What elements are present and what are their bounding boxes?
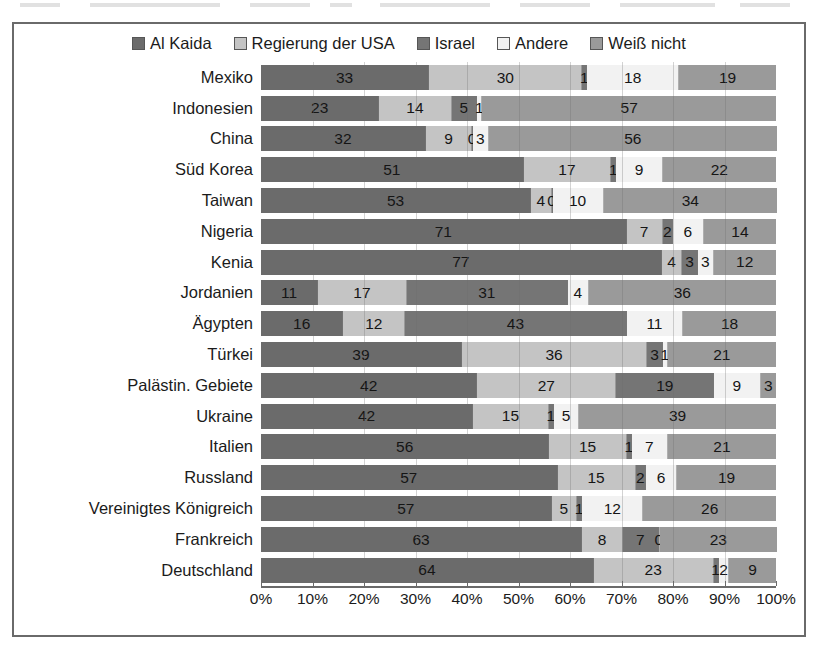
bar-value-label: 21 xyxy=(713,347,730,363)
row-label-kenia: Kenia xyxy=(14,253,261,272)
bar-segment: 56 xyxy=(489,126,777,151)
row-label-taiwan: Taiwan xyxy=(14,191,261,210)
bar-segment: 8 xyxy=(582,527,623,552)
chart-legend: Al KaidaRegierung der USAIsraelAndereWei… xyxy=(14,30,804,56)
x-axis-tick-mark xyxy=(467,581,468,586)
legend-label: Al Kaida xyxy=(150,34,211,53)
bar-row: China3290356 xyxy=(14,124,804,155)
bar-value-label: 42 xyxy=(358,408,375,424)
row-label-ägypten: Ägypten xyxy=(14,314,261,333)
bar-value-label: 16 xyxy=(293,316,310,332)
bar-value-label: 8 xyxy=(598,532,607,548)
bar-value-label: 33 xyxy=(336,70,353,86)
row-track: 7172614 xyxy=(261,219,776,244)
scan-speck xyxy=(20,3,60,7)
bar-value-label: 11 xyxy=(281,285,297,301)
bar-segment: 11 xyxy=(627,311,684,336)
bar-value-label: 12 xyxy=(365,316,382,332)
bar-segment: 19 xyxy=(616,373,714,398)
bar-segment: 57 xyxy=(261,465,558,490)
bar-segment: 19 xyxy=(679,65,776,90)
bar-value-label: 6 xyxy=(657,470,666,486)
bar-segment: 2 xyxy=(663,219,673,244)
legend-item-israel[interactable]: Israel xyxy=(417,34,475,53)
bar-value-label: 5 xyxy=(562,408,571,424)
bar-value-label: 18 xyxy=(721,316,738,332)
bar-value-label: 2 xyxy=(663,224,672,240)
x-axis-tick-label: 80% xyxy=(657,590,688,608)
bar-value-label: 27 xyxy=(538,378,555,394)
legend-item-al-kaida[interactable]: Al Kaida xyxy=(132,34,211,53)
bar-value-label: 77 xyxy=(452,254,469,270)
bar-value-label: 31 xyxy=(478,285,495,301)
bar-value-label: 23 xyxy=(710,532,727,548)
legend-item-andere[interactable]: Andere xyxy=(497,34,568,53)
bar-value-label: 3 xyxy=(764,378,773,394)
bar-segment: 36 xyxy=(589,280,776,305)
bar-row: Jordanien111731436 xyxy=(14,278,804,309)
bar-row: Vereinigtes Königreich57511226 xyxy=(14,493,804,524)
bar-value-label: 9 xyxy=(444,131,453,147)
bar-value-label: 26 xyxy=(701,501,718,517)
bar-value-label: 19 xyxy=(719,70,736,86)
bar-value-label: 43 xyxy=(507,316,524,332)
bar-value-label: 10 xyxy=(569,193,586,209)
row-track: 39363121 xyxy=(261,342,776,367)
bar-segment: 77 xyxy=(261,250,662,275)
bar-value-label: 17 xyxy=(558,162,575,178)
bar-segment: 63 xyxy=(261,527,582,552)
bar-value-label: 3 xyxy=(650,347,659,363)
x-axis-tick-label: 60% xyxy=(554,590,585,608)
bar-segment: 57 xyxy=(482,96,776,121)
scan-speck xyxy=(380,3,490,7)
row-track: 3290356 xyxy=(261,126,776,151)
bar-segment: 39 xyxy=(261,342,462,367)
bar-segment: 14 xyxy=(379,96,451,121)
x-axis-tick-mark xyxy=(261,581,262,586)
row-label-indonesien: Indonesien xyxy=(14,99,261,118)
row-label-italien: Italien xyxy=(14,437,261,456)
bar-segment: 9 xyxy=(426,126,472,151)
bar-segment: 31 xyxy=(407,280,568,305)
row-label-deutschland: Deutschland xyxy=(14,561,261,580)
x-axis-tick-mark xyxy=(313,581,314,586)
bar-value-label: 11 xyxy=(646,316,662,332)
row-track: 42271993 xyxy=(261,373,776,398)
row-label-süd-korea: Süd Korea xyxy=(14,160,261,179)
scan-speck xyxy=(90,3,220,7)
x-axis-line xyxy=(261,586,776,588)
bar-segment: 23 xyxy=(261,96,379,121)
bar-segment: 32 xyxy=(261,126,426,151)
bar-segment: 33 xyxy=(261,65,429,90)
bar-segment: 36 xyxy=(462,342,647,367)
bar-segment: 4 xyxy=(662,250,683,275)
bar-row: Türkei39363121 xyxy=(14,339,804,370)
bar-segment: 3 xyxy=(647,342,662,367)
bar-segment: 39 xyxy=(579,404,776,429)
row-track: 7743312 xyxy=(261,250,776,275)
scan-speck xyxy=(250,3,310,7)
bar-segment: 6 xyxy=(673,219,704,244)
bar-segment: 11 xyxy=(261,280,318,305)
bar-segment: 18 xyxy=(587,65,679,90)
row-track: 1612431118 xyxy=(261,311,776,336)
bar-segment: 5 xyxy=(452,96,478,121)
row-label-russland: Russland xyxy=(14,468,261,487)
row-track: 51171922 xyxy=(261,157,776,182)
bar-segment: 4 xyxy=(531,188,551,213)
bar-segment: 71 xyxy=(261,219,627,244)
legend-item-wei-nicht[interactable]: Weiß nicht xyxy=(590,34,686,53)
bar-value-label: 32 xyxy=(334,131,351,147)
bar-segment: 6 xyxy=(646,465,677,490)
bar-segment: 56 xyxy=(261,434,549,459)
bar-segment: 23 xyxy=(660,527,777,552)
row-track: 6423129 xyxy=(261,558,776,583)
legend-swatch-al-kaida-icon xyxy=(132,37,145,50)
legend-item-regierung-der-usa[interactable]: Regierung der USA xyxy=(234,34,395,53)
x-axis-tick-label: 0% xyxy=(250,590,272,608)
bar-value-label: 4 xyxy=(573,285,582,301)
bar-value-label: 19 xyxy=(718,470,735,486)
scan-speck xyxy=(620,3,715,7)
bar-value-label: 71 xyxy=(435,224,452,240)
bar-segment: 2 xyxy=(719,558,729,583)
